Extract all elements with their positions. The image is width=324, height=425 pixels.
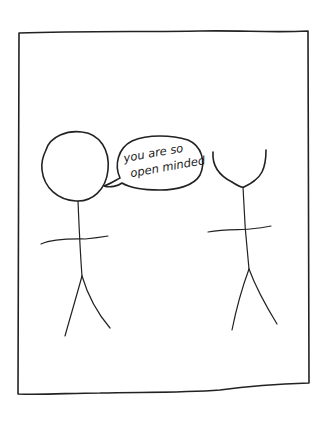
right-figure-body (243, 187, 249, 269)
right-figure (208, 150, 277, 330)
right-figure-head (213, 150, 266, 187)
left-figure-arms (41, 236, 108, 244)
right-figure-leg-left (232, 269, 249, 330)
panel-border (18, 31, 309, 394)
comic-panel: you are so open minded (0, 0, 324, 425)
left-figure-leg-right (82, 276, 110, 328)
left-figure-leg-left (65, 276, 82, 336)
left-figure (41, 132, 110, 336)
speech-bubble: you are so open minded (104, 136, 207, 190)
left-figure-head (42, 132, 109, 201)
right-figure-leg-right (249, 269, 277, 324)
right-figure-arms (208, 226, 271, 232)
